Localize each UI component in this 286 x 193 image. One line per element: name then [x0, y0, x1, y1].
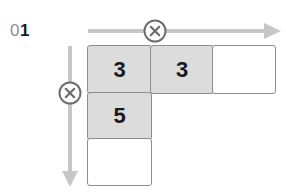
vertical-arrow-head [62, 171, 78, 187]
diagram-canvas: 01 3 3 5 [0, 0, 286, 193]
grid-cell[interactable] [87, 138, 152, 186]
grid-cell-placeholder [212, 138, 276, 186]
vertical-circle-x-icon[interactable] [60, 83, 81, 104]
grid-cell[interactable] [212, 45, 276, 94]
grid-cell-value: 3 [176, 59, 188, 81]
grid-cell-placeholder [212, 92, 276, 140]
grid-cell[interactable]: 5 [87, 92, 152, 140]
grid-cell[interactable]: 3 [150, 45, 214, 94]
step-label-dim: 0 [10, 21, 20, 40]
grid-cell-value: 5 [113, 105, 125, 127]
grid-cell-placeholder [150, 138, 214, 186]
grid-cell-placeholder [150, 92, 214, 140]
horizontal-arrow-head [264, 23, 281, 39]
step-label: 01 [10, 22, 30, 39]
grid-cell-value: 3 [113, 59, 125, 81]
step-label-strong: 1 [20, 21, 30, 40]
block-grid: 3 3 5 [88, 46, 275, 185]
grid-cell[interactable]: 3 [87, 45, 152, 94]
horizontal-circle-x-icon[interactable] [145, 21, 166, 42]
